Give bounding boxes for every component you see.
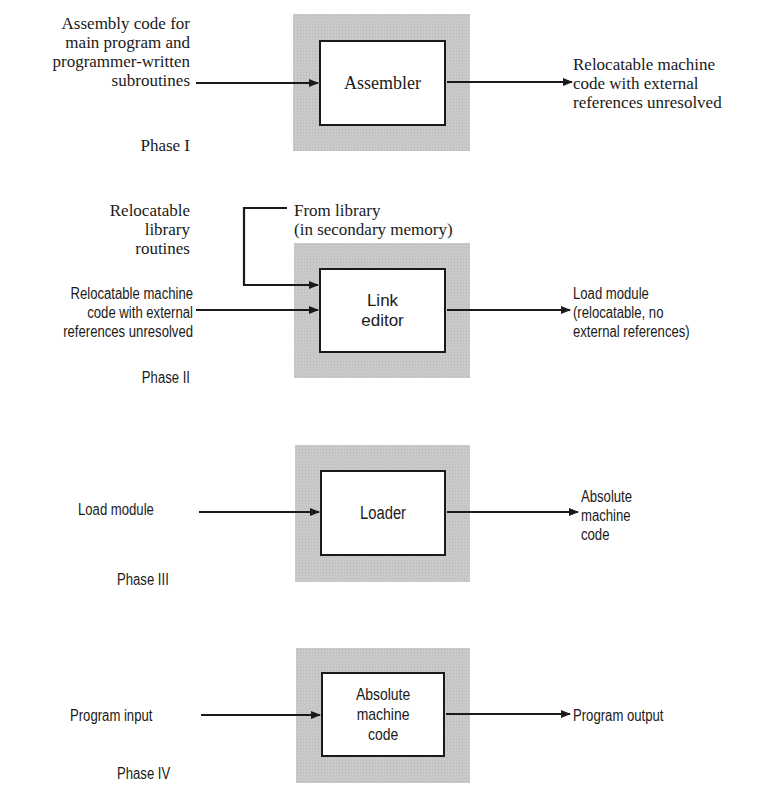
phase-2-input-label: Relocatable machine code with external r…: [0, 284, 193, 341]
library-routines-label: Relocatable library routines: [110, 201, 190, 258]
phase-1-input-label: Assembly code for main program and progr…: [53, 14, 191, 90]
phase-4-label: Phase IV: [117, 764, 217, 783]
link-editor-box: Link editor: [319, 268, 446, 353]
phase-4-output-label: Program output: [573, 706, 733, 725]
assembler-label: Assembler: [344, 73, 421, 93]
phase-1-output-label: Relocatable machine code with external r…: [573, 55, 722, 112]
loader-box: Loader: [320, 470, 446, 556]
phase-3-output-label: Absolute machine code: [581, 487, 701, 544]
link-editor-label: Link editor: [361, 291, 404, 331]
phase-4-input-label: Program input: [70, 706, 210, 725]
library-source-label: From library (in secondary memory): [294, 201, 453, 239]
phase-2-label: Phase II: [90, 368, 190, 387]
absolute-machine-code-label: Absolute machine code: [356, 685, 410, 745]
phase-3-label: Phase III: [117, 570, 217, 589]
phase-3-input-label: Load module: [78, 500, 218, 519]
assembler-box: Assembler: [319, 40, 446, 126]
phase-2-output-label: Load module (relocatable, no external re…: [573, 284, 773, 341]
loader-label: Loader: [360, 503, 406, 523]
absolute-machine-code-box: Absolute machine code: [321, 672, 445, 757]
phase-1-label: Phase I: [140, 136, 190, 155]
